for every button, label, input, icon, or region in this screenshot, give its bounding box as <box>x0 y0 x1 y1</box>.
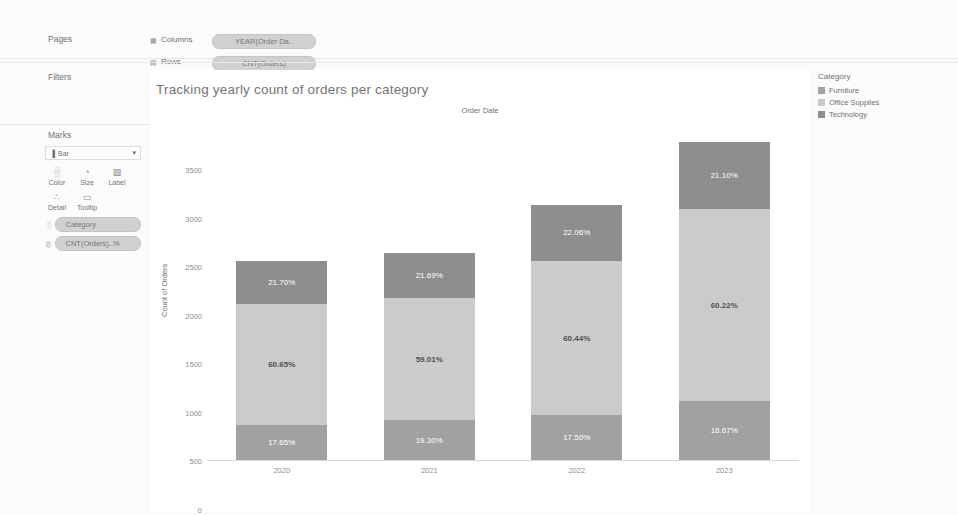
divider-filters <box>0 124 150 125</box>
bar-label: 21.69% <box>416 271 443 280</box>
tooltip-button[interactable]: ▭ Tooltip <box>77 192 97 211</box>
bar-stack-2020[interactable]: 17.65%60.65%21.70% <box>236 261 327 460</box>
column-field-header: Order Date <box>150 106 810 115</box>
bar-label: 60.65% <box>268 360 295 369</box>
size-button[interactable]: ◔ Size <box>77 167 97 186</box>
bar-label: 19.30% <box>416 436 443 445</box>
legend-item-furniture[interactable]: Furniture <box>818 86 948 95</box>
rows-pill-cnt-orders[interactable]: CNT(Orders) <box>212 56 316 71</box>
mark-buttons-row-2: ∴ Detail ▭ Tooltip <box>45 192 141 211</box>
color-legend: Category Furniture Office Supplies Techn… <box>818 72 948 122</box>
grid-columns-icon: ▦ <box>150 37 157 44</box>
mark-pill-category-row: ░ Category <box>45 217 141 232</box>
bar-label: 21.70% <box>268 278 295 287</box>
legend-label-office-supplies: Office Supplies <box>829 98 879 107</box>
legend-swatch-technology <box>818 111 825 118</box>
y-axis-tick: 2000 <box>185 311 202 320</box>
detail-icon: ∴ <box>47 192 67 203</box>
filters-shelf-label: Filters <box>48 72 71 82</box>
bar-stack-2022[interactable]: 17.50%60.44%22.06% <box>531 205 622 460</box>
bar-stack-2021[interactable]: 19.30%59.01%21.69% <box>384 253 475 460</box>
tooltip-icon: ▭ <box>77 192 97 203</box>
color-button[interactable]: ░ Color <box>47 167 67 186</box>
columns-shelf-label: Columns <box>161 35 193 44</box>
legend-item-office-supplies[interactable]: Office Supplies <box>818 98 948 107</box>
mark-pill-cnt-orders-pct[interactable]: CNT(Orders)..% <box>55 236 141 251</box>
legend-label-furniture: Furniture <box>829 86 859 95</box>
bar-label: 21.10% <box>711 171 738 180</box>
visualization-canvas: Tracking yearly count of orders per cate… <box>150 70 810 512</box>
bar-label: 17.50% <box>563 433 590 442</box>
bar-label: 22.06% <box>563 228 590 237</box>
legend-title: Category <box>818 72 948 81</box>
columns-shelf-drop[interactable]: YEAR(Order Da.. <box>212 30 850 49</box>
columns-shelf-label-wrap: ▦ Columns <box>150 35 212 44</box>
columns-shelf[interactable]: ▦ Columns YEAR(Order Da.. <box>150 28 850 50</box>
mark-type-value: Bar <box>58 150 69 157</box>
pages-shelf-label: Pages <box>48 34 72 44</box>
size-button-label: Size <box>80 179 94 186</box>
bar-segment-technology[interactable]: 21.69% <box>384 253 475 298</box>
bar-segment-technology[interactable]: 21.10% <box>679 142 770 209</box>
x-axis-tick-2020: 2020 <box>273 466 290 475</box>
bar-segment-office-supplies[interactable]: 60.44% <box>531 261 622 415</box>
bar-stack-2023[interactable]: 18.67%60.22%21.10% <box>679 142 770 460</box>
columns-pill-year-order-date[interactable]: YEAR(Order Da.. <box>212 34 316 49</box>
rows-shelf-label: Rows <box>161 57 181 66</box>
label-button-label: Label <box>108 179 125 186</box>
y-axis-tick: 3000 <box>185 214 202 223</box>
legend-swatch-furniture <box>818 87 825 94</box>
shelf-area: ▦ Columns YEAR(Order Da.. ▤ Rows CNT(Ord… <box>150 28 850 72</box>
bar-label: 18.67% <box>711 426 738 435</box>
tooltip-button-label: Tooltip <box>77 204 97 211</box>
chart-title: Tracking yearly count of orders per cate… <box>156 82 428 97</box>
x-axis-line <box>207 460 799 461</box>
bar-segment-furniture[interactable]: 17.50% <box>531 415 622 460</box>
legend-label-technology: Technology <box>829 110 867 119</box>
mark-buttons-row-1: ░ Color ◔ Size ▧ Label <box>45 167 141 186</box>
y-axis-tick: 0 <box>198 506 202 515</box>
label-button[interactable]: ▧ Label <box>107 167 127 186</box>
y-axis: 0500100015002000250030003500 <box>150 120 208 460</box>
bar-mark-icon: ▐ <box>50 150 55 157</box>
x-axis-tick-2022: 2022 <box>568 466 585 475</box>
plot-area: 17.65%60.65%21.70%19.30%59.01%21.69%17.5… <box>208 120 798 460</box>
x-axis-tick-2021: 2021 <box>421 466 438 475</box>
bar-segment-furniture[interactable]: 17.65% <box>236 425 327 460</box>
rows-shelf-label-wrap: ▤ Rows <box>150 57 212 66</box>
detail-button[interactable]: ∴ Detail <box>47 192 67 211</box>
detail-button-label: Detail <box>48 204 66 211</box>
color-icon: ░ <box>47 167 67 178</box>
rows-shelf-drop[interactable]: CNT(Orders) <box>212 52 850 71</box>
bar-segment-technology[interactable]: 22.06% <box>531 205 622 261</box>
y-axis-tick: 1000 <box>185 408 202 417</box>
label-encoding-icon: Ⓓ <box>45 239 52 249</box>
marks-card-pills: ░ Category Ⓓ CNT(Orders)..% <box>45 217 141 251</box>
bar-segment-furniture[interactable]: 19.30% <box>384 420 475 460</box>
left-control-panel: Pages Filters Marks ▐ Bar ▾ ░ Color ◔ Si… <box>0 0 150 512</box>
marks-card-label: Marks <box>48 130 71 140</box>
bar-label: 60.22% <box>711 301 738 310</box>
rows-shelf[interactable]: ▤ Rows CNT(Orders) <box>150 50 850 72</box>
legend-item-technology[interactable]: Technology <box>818 110 948 119</box>
mark-type-dropdown[interactable]: ▐ Bar ▾ <box>45 146 141 160</box>
color-encoding-icon: ░ <box>45 221 52 228</box>
bar-label: 60.44% <box>563 334 590 343</box>
y-axis-tick: 3500 <box>185 166 202 175</box>
y-axis-tick: 1500 <box>185 360 202 369</box>
bar-segment-office-supplies[interactable]: 60.22% <box>679 209 770 400</box>
divider-shelves <box>0 62 958 63</box>
marks-card: ▐ Bar ▾ ░ Color ◔ Size ▧ Label ∴ Detail <box>45 146 141 251</box>
size-icon: ◔ <box>77 167 97 178</box>
legend-swatch-office-supplies <box>818 99 825 106</box>
bar-segment-office-supplies[interactable]: 59.01% <box>384 298 475 420</box>
mark-pill-category[interactable]: Category <box>55 217 141 232</box>
y-axis-tick: 500 <box>189 457 202 466</box>
bar-label: 59.01% <box>416 355 443 364</box>
bar-segment-furniture[interactable]: 18.67% <box>679 401 770 460</box>
label-icon: ▧ <box>107 167 127 178</box>
chevron-down-icon: ▾ <box>132 149 136 157</box>
y-axis-tick: 2500 <box>185 263 202 272</box>
bar-segment-technology[interactable]: 21.70% <box>236 261 327 304</box>
bar-segment-office-supplies[interactable]: 60.65% <box>236 304 327 425</box>
